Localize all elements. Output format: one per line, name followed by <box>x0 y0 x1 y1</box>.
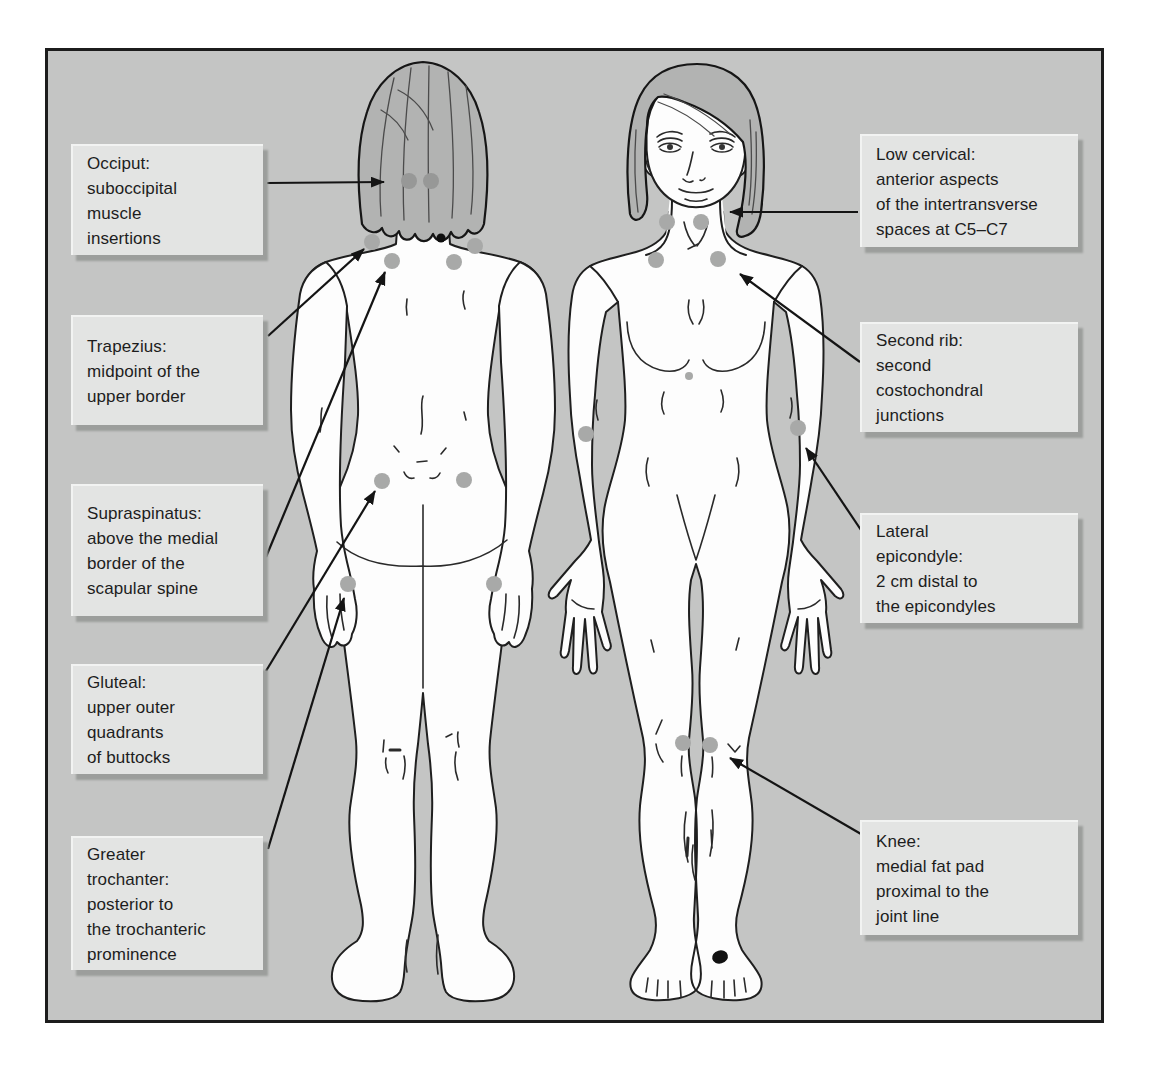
callout-greater-trochanter-text: Greater trochanter: posterior to the tro… <box>87 842 206 967</box>
callout-second-rib-text: Second rib: second costochondral junctio… <box>876 328 983 428</box>
callout-knee-text: Knee: medial fat pad proximal to the joi… <box>876 829 989 929</box>
callout-gluteal-text: Gluteal: upper outer quadrants of buttoc… <box>87 670 175 770</box>
page: Occiput: suboccipital muscle insertions … <box>0 0 1149 1066</box>
callout-supraspinatus-text: Supraspinatus: above the medial border o… <box>87 501 218 601</box>
callout-trapezius: Trapezius: midpoint of the upper border <box>71 315 263 425</box>
callout-supraspinatus: Supraspinatus: above the medial border o… <box>71 484 263 616</box>
callout-lateral-epicondyle: Lateral epicondyle: 2 cm distal to the e… <box>860 513 1078 623</box>
callout-lateral-epicondyle-text: Lateral epicondyle: 2 cm distal to the e… <box>876 519 996 619</box>
callout-second-rib: Second rib: second costochondral junctio… <box>860 322 1078 432</box>
callout-occiput-text: Occiput: suboccipital muscle insertions <box>87 151 177 251</box>
callout-low-cervical: Low cervical: anterior aspects of the in… <box>860 134 1078 247</box>
callout-gluteal: Gluteal: upper outer quadrants of buttoc… <box>71 664 263 774</box>
callout-greater-trochanter: Greater trochanter: posterior to the tro… <box>71 836 263 970</box>
callout-trapezius-text: Trapezius: midpoint of the upper border <box>87 334 200 409</box>
callout-occiput: Occiput: suboccipital muscle insertions <box>71 144 263 255</box>
callout-low-cervical-text: Low cervical: anterior aspects of the in… <box>876 142 1038 242</box>
callout-knee: Knee: medial fat pad proximal to the joi… <box>860 820 1078 935</box>
